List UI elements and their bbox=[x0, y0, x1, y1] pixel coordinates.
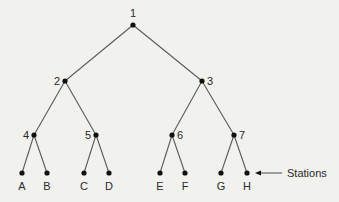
node-F bbox=[182, 170, 187, 175]
edge-2-5 bbox=[65, 81, 96, 135]
edge-6-E bbox=[160, 135, 172, 173]
edges-group bbox=[22, 25, 247, 173]
edge-7-G bbox=[221, 135, 234, 173]
nodes-group bbox=[19, 22, 249, 175]
arrow-head-icon bbox=[255, 171, 261, 176]
node-label-1: 1 bbox=[130, 7, 136, 19]
node-label-G: G bbox=[217, 180, 226, 192]
edge-1-2 bbox=[65, 25, 133, 81]
node-6 bbox=[169, 132, 174, 137]
node-3 bbox=[199, 78, 204, 83]
node-label-D: D bbox=[105, 180, 113, 192]
node-label-B: B bbox=[43, 180, 50, 192]
tree-svg: 1234567ABCDEFGH Stations bbox=[0, 0, 339, 202]
edge-5-D bbox=[96, 135, 109, 173]
node-label-3: 3 bbox=[207, 75, 213, 87]
node-1 bbox=[130, 22, 135, 27]
node-label-2: 2 bbox=[54, 75, 60, 87]
tree-diagram: 1234567ABCDEFGH Stations bbox=[0, 0, 339, 202]
edge-1-3 bbox=[133, 25, 202, 81]
edge-3-6 bbox=[172, 81, 202, 135]
node-G bbox=[218, 170, 223, 175]
node-E bbox=[157, 170, 162, 175]
node-H bbox=[244, 170, 249, 175]
node-label-4: 4 bbox=[23, 129, 29, 141]
node-C bbox=[81, 170, 86, 175]
node-2 bbox=[62, 78, 67, 83]
node-7 bbox=[231, 132, 236, 137]
node-label-F: F bbox=[182, 180, 189, 192]
edge-3-7 bbox=[202, 81, 234, 135]
node-label-C: C bbox=[80, 180, 88, 192]
node-5 bbox=[93, 132, 98, 137]
stations-label: Stations bbox=[287, 167, 327, 179]
node-label-5: 5 bbox=[85, 129, 91, 141]
node-A bbox=[19, 170, 24, 175]
node-D bbox=[106, 170, 111, 175]
node-4 bbox=[31, 132, 36, 137]
node-label-7: 7 bbox=[239, 129, 245, 141]
node-label-6: 6 bbox=[177, 129, 183, 141]
edge-2-4 bbox=[34, 81, 65, 135]
node-label-E: E bbox=[156, 180, 163, 192]
stations-annotation: Stations bbox=[255, 167, 327, 179]
node-label-A: A bbox=[18, 180, 26, 192]
labels-group: 1234567ABCDEFGH bbox=[18, 7, 251, 192]
node-B bbox=[44, 170, 49, 175]
edge-4-B bbox=[34, 135, 47, 173]
node-label-H: H bbox=[243, 180, 251, 192]
